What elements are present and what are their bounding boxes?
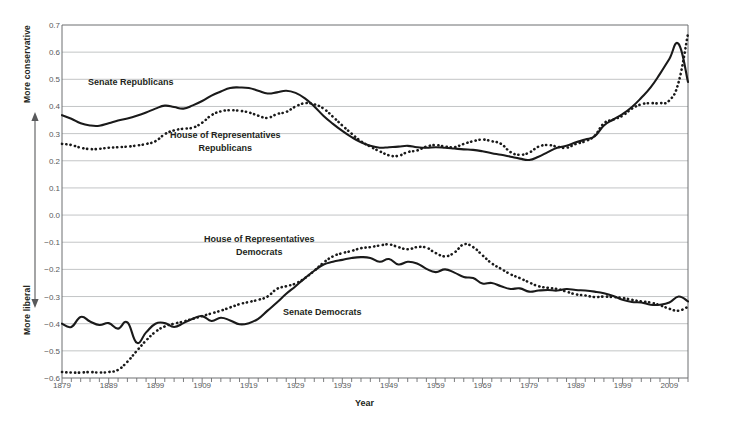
- series-label-senate-democrats: Senate Democrats: [283, 306, 362, 319]
- x-tick-label: 1909: [193, 381, 211, 390]
- chart-container: More conservative More liberal 0.70.60.5…: [0, 0, 729, 423]
- x-tick-label: 1879: [53, 381, 71, 390]
- x-tick-label: 1919: [240, 381, 258, 390]
- x-tick-label: 1999: [614, 381, 632, 390]
- x-tick-label: 1959: [427, 381, 445, 390]
- x-tick-label: 1939: [333, 381, 351, 390]
- series-label-line2: Republicans: [170, 142, 281, 155]
- series-label-house-democrats: House of Representatives Democrats: [204, 233, 315, 259]
- series-label-line1: House of Representatives: [170, 130, 281, 140]
- series-label-line1: House of Representatives: [204, 234, 315, 244]
- series-label-line2: Democrats: [204, 246, 315, 259]
- x-tick-label: 1979: [520, 381, 538, 390]
- x-tick-label: 1969: [474, 381, 492, 390]
- x-tick-label: 2009: [660, 381, 678, 390]
- series-label-house-republicans: House of Representatives Republicans: [170, 129, 281, 155]
- series-label-line1: Senate Democrats: [283, 307, 362, 317]
- x-tick-label: 1899: [147, 381, 165, 390]
- x-tick-label: 1889: [100, 381, 118, 390]
- x-tick-label: 1929: [287, 381, 305, 390]
- series-label-line1: Senate Republicans: [88, 77, 174, 87]
- x-axis-tick-labels: 1879188918991909191919291939194919591969…: [0, 0, 729, 423]
- x-axis-title: Year: [0, 398, 729, 408]
- series-label-senate-republicans: Senate Republicans: [88, 76, 174, 89]
- x-tick-label: 1989: [567, 381, 585, 390]
- x-tick-label: 1949: [380, 381, 398, 390]
